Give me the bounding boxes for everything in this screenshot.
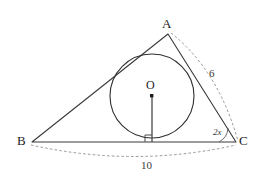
- angle-label-at-c: 2x: [213, 128, 222, 137]
- geometry-figure: A B C O 6 10 2x: [0, 0, 266, 182]
- vertex-label-b: B: [17, 134, 26, 147]
- center-label-o: O: [146, 79, 155, 91]
- side-length-label-bc: 10: [141, 160, 152, 171]
- triangle-abc-outline: [32, 34, 236, 142]
- dashed-arc-side-bc: [31, 145, 236, 157]
- center-point-dot: [150, 94, 153, 97]
- dashed-arc-side-ac: [171, 33, 238, 141]
- side-length-label-ac: 6: [209, 68, 215, 79]
- vertex-label-a: A: [162, 17, 171, 30]
- geometry-canvas: [0, 0, 266, 182]
- vertex-label-c: C: [239, 134, 248, 147]
